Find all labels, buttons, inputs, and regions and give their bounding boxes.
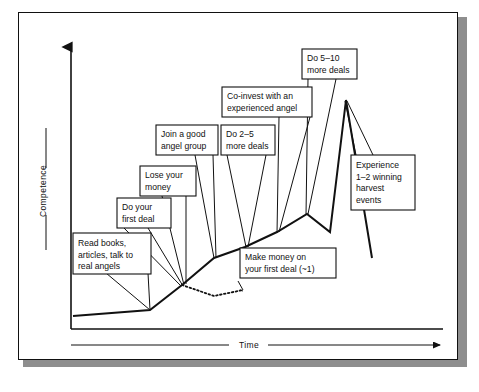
callout-lose-money[interactable]: Lose your money [140,166,196,196]
callout-deals-5-10[interactable]: Do 5–10 more deals [302,49,357,79]
x-axis-label: Time [71,340,440,350]
callout-deals-2-5[interactable]: Do 2–5 more deals [221,125,275,155]
callout-read-books[interactable]: Read books, articles, talk to real angel… [73,233,151,274]
callout-co-invest-text: Co-invest with an experienced angel [227,91,297,113]
callout-first-deal[interactable]: Do your first deal [117,198,171,228]
callout-angel-group-text: Join a good angel group [161,129,208,151]
callout-make-money-text: Make money on your first deal (~1) [245,252,315,274]
figure-container: Competence Time [0,0,479,392]
callout-make-money[interactable]: Make money on your first deal (~1) [240,248,336,278]
callout-angel-group[interactable]: Join a good angel group [156,125,218,155]
y-axis-label-text: Competence [38,165,48,217]
y-axis-label: Competence [38,128,48,250]
callout-first-deal-text: Do your first deal [122,202,155,224]
competence-curve-chart: Competence Time [0,0,479,392]
series-alternate-dotted-curve [182,285,243,296]
x-axis-label-text: Time [239,340,259,350]
callout-co-invest[interactable]: Co-invest with an experienced angel [222,87,312,117]
callout-harvest-events[interactable]: Experience 1–2 winning harvest events [351,155,415,210]
